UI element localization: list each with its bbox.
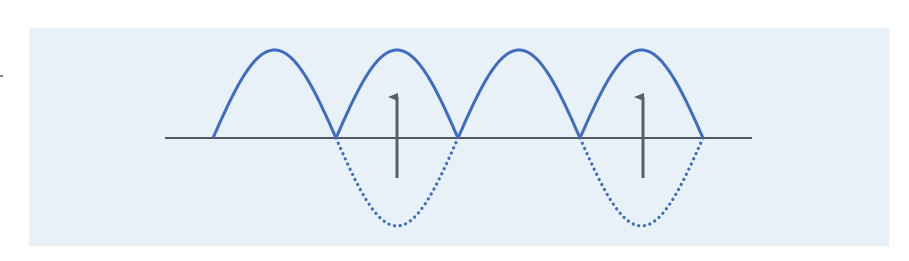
solid-arch [458,50,580,138]
solid-arch [213,50,336,138]
dotted-negative-lobes [336,138,703,226]
wave-diagram [0,0,909,261]
solid-rectified-arches [213,50,703,138]
